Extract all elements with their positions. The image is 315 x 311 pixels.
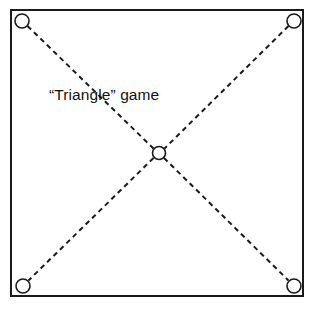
top-right-node[interactable] (287, 14, 301, 28)
bottom-right-node[interactable] (287, 279, 301, 293)
figure-caption: “Triangle” game (49, 86, 159, 104)
center-node[interactable] (153, 147, 166, 160)
top-left-node[interactable] (15, 14, 29, 28)
figure-canvas: “Triangle” game (0, 0, 315, 311)
triangle-game-diagram (0, 0, 315, 311)
bottom-left-node[interactable] (16, 279, 30, 293)
